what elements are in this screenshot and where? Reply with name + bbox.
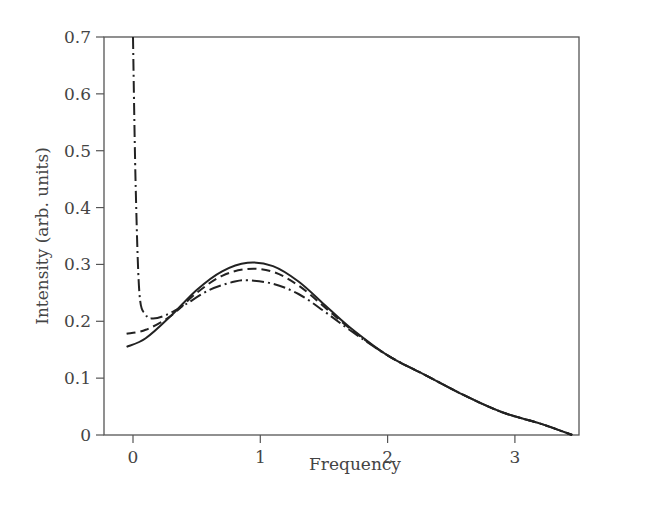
plot-curves <box>127 37 573 435</box>
x-tick-label: 3 <box>509 447 520 467</box>
series-solid-line <box>127 262 573 435</box>
y-axis-ticks: 00.10.20.30.40.50.60.7 <box>64 27 104 445</box>
plot-border <box>104 37 579 435</box>
y-tick-label: 0.4 <box>64 198 91 218</box>
plot-frame <box>104 37 579 435</box>
x-tick-label: 0 <box>128 447 139 467</box>
x-tick-label: 1 <box>255 447 266 467</box>
y-tick-label: 0.7 <box>64 27 91 47</box>
y-axis-label: Intensity (arb. units) <box>32 147 52 325</box>
y-tick-label: 0.5 <box>64 141 91 161</box>
y-tick-label: 0 <box>80 425 91 445</box>
y-tick-label: 0.3 <box>64 254 91 274</box>
chart: 00.10.20.30.40.50.60.7 0123 Frequency In… <box>0 0 666 523</box>
y-tick-label: 0.6 <box>64 84 91 104</box>
x-axis-label: Frequency <box>309 454 401 474</box>
y-tick-label: 0.2 <box>64 311 91 331</box>
y-tick-label: 0.1 <box>64 368 91 388</box>
series-dash-dot-line <box>133 37 572 435</box>
